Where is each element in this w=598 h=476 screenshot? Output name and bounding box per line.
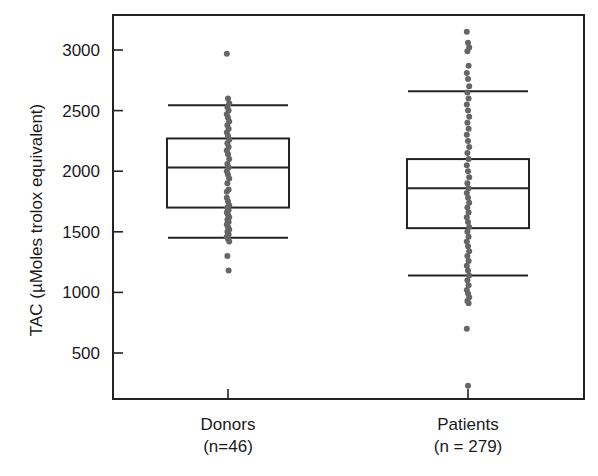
data-point (226, 268, 232, 274)
data-point (224, 51, 230, 57)
y-axis-title: TAC (µMoles trolox equivalent) (27, 104, 46, 336)
data-point (226, 238, 232, 244)
data-point (464, 48, 470, 54)
y-tick-label: 1000 (62, 283, 100, 302)
y-tick-label: 3000 (62, 41, 100, 60)
box-plot-chart: 50010001500200025003000 Donors(n=46)Pati… (0, 0, 598, 476)
data-point (465, 76, 471, 82)
data-point (464, 70, 470, 76)
data-point (464, 326, 470, 332)
data-point (465, 168, 471, 174)
data-point (464, 89, 470, 95)
data-points (224, 29, 472, 389)
data-point (466, 63, 472, 69)
x-category-label: Patients (437, 415, 498, 434)
data-point (464, 132, 470, 138)
y-tick-label: 500 (72, 344, 100, 363)
x-category-label: Donors (201, 415, 256, 434)
data-point (464, 162, 470, 168)
data-point (466, 126, 472, 132)
data-point (464, 29, 470, 35)
data-point (466, 83, 472, 89)
data-point (466, 114, 472, 120)
y-tick-label: 2000 (62, 162, 100, 181)
data-point (224, 253, 230, 259)
data-point (224, 180, 230, 186)
x-category-n: (n=46) (203, 437, 253, 456)
data-point (466, 144, 472, 150)
data-point (466, 174, 472, 180)
data-point (466, 156, 472, 162)
boxes (167, 91, 529, 275)
y-tick-label: 1500 (62, 223, 100, 242)
data-point (465, 138, 471, 144)
data-point (466, 95, 472, 101)
data-point (466, 300, 472, 306)
y-tick-label: 2500 (62, 102, 100, 121)
data-point (464, 102, 470, 108)
data-point (465, 108, 471, 114)
points-donors (224, 51, 232, 274)
points-patients (464, 29, 472, 389)
data-point (464, 120, 470, 126)
data-point (465, 383, 471, 389)
data-point (224, 189, 230, 195)
x-category-n: (n = 279) (434, 437, 503, 456)
data-point (464, 150, 470, 156)
